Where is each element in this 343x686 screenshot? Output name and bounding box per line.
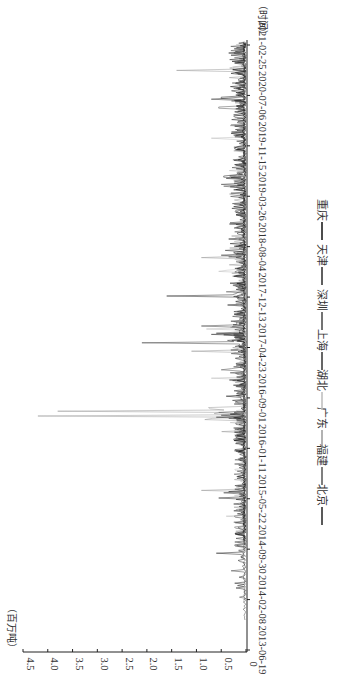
series-layer (38, 42, 246, 620)
value-axis-unit-label: （百万吨） (6, 603, 18, 653)
value-tick-label: 0.5 (223, 657, 234, 670)
legend: 北京福建广东湖北上海深圳天津重庆 (316, 199, 329, 525)
legend-label: 深圳 (316, 289, 328, 311)
legend-label: 湖北 (316, 369, 328, 391)
date-tick-label: 2020-07-06 (257, 71, 268, 120)
date-tick-label: 2015-05-22 (257, 474, 268, 523)
date-tick-label: 2017-12-13 (257, 273, 268, 322)
date-tick-label: 2018-08-04 (257, 222, 268, 272)
date-tick-label: 2019-03-26 (257, 172, 268, 221)
date-tick-label: 2019-11-15 (257, 122, 268, 171)
value-tick-label: 1.0 (198, 657, 209, 670)
value-tick-label: 4.0 (49, 657, 60, 670)
value-tick-label: 0 (248, 661, 259, 666)
rotated-line-chart: 2013-06-192014-02-082014-09-302015-05-22… (0, 0, 343, 686)
value-tick-label: 2.0 (148, 657, 159, 670)
date-tick-label: 2014-09-30 (257, 525, 268, 574)
series-line-6 (142, 43, 246, 620)
date-axis-unit-label: （时间） (257, 0, 269, 40)
date-tick-label: 2016-09-01 (257, 373, 268, 422)
legend-label: 上海 (316, 329, 329, 351)
value-tick-label: 3.0 (99, 657, 110, 670)
chart-canvas: 2013-06-192014-02-082014-09-302015-05-22… (0, 0, 343, 686)
date-tick-label: 2014-02-08 (257, 575, 268, 624)
legend-label: 北京 (316, 484, 329, 506)
value-tick-label: 2.5 (124, 657, 135, 670)
axes-layer: 2013-06-192014-02-082014-09-302015-05-22… (6, 0, 269, 675)
series-line-3 (38, 43, 246, 554)
date-tick-label: 2013-06-19 (257, 626, 268, 675)
date-tick-label: 2017-04-23 (257, 323, 268, 372)
value-tick-label: 1.5 (173, 657, 184, 670)
date-tick-label: 2016-01-11 (257, 424, 268, 473)
legend-label: 重庆 (316, 199, 329, 221)
value-tick-label: 4.5 (25, 657, 36, 670)
legend-label: 广东 (316, 407, 328, 429)
legend-label: 天津 (316, 244, 328, 266)
value-tick-label: 3.5 (74, 657, 85, 670)
